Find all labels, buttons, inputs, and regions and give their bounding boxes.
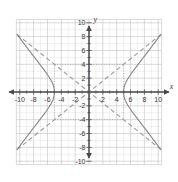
y-tick-label: 4 [82,61,86,68]
y-tick-label: -2 [79,102,85,109]
y-tick-label: -4 [79,116,85,123]
y-tick-label: 2 [82,75,86,82]
x-tick-label: -8 [31,96,37,103]
y-tick-label: 10 [78,19,86,26]
x-tick-label: -6 [44,96,50,103]
x-tick-label: 2 [101,96,105,103]
graph-canvas: -10-8-6-4-2246810 108642-2-4-6-8-10 x y [0,0,178,182]
y-tick-label: -10 [75,158,85,165]
y-tick-label: 8 [82,33,86,40]
y-axis-label: y [93,15,98,24]
y-tick-label: -8 [79,144,85,151]
x-tick-label: -2 [72,96,78,103]
y-tick-label: -6 [79,130,85,137]
x-tick-label: 4 [115,96,119,103]
y-tick-label: 6 [82,47,86,54]
x-tick-label: 8 [142,96,146,103]
x-axis-label: x [169,82,174,91]
x-tick-label: -4 [58,96,64,103]
hyperbola-graph-figure: -10-8-6-4-2246810 108642-2-4-6-8-10 x y [0,0,178,182]
x-tick-label: 10 [154,96,162,103]
x-tick-label: 6 [129,96,133,103]
x-tick-label: -10 [15,96,25,103]
